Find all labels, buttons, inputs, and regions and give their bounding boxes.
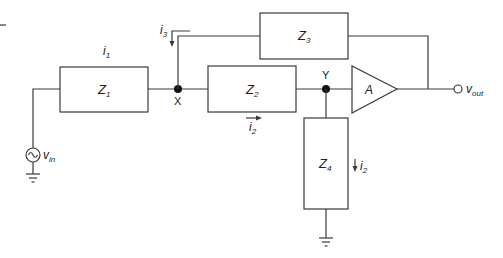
- amplifier-label: A: [364, 83, 373, 97]
- circuit-diagram: vin Z1 i1 X i3 Z2 i2 Y Z4 i2 Z3 A vout: [0, 0, 503, 258]
- ground-icon: [26, 174, 40, 182]
- i1-label: i1: [103, 44, 110, 60]
- vin-label: vin: [43, 148, 56, 164]
- i3-arrow-icon: [170, 41, 175, 47]
- input-source: [26, 89, 60, 182]
- node-y-label: Y: [322, 69, 330, 81]
- i2-arrow-icon: [256, 116, 262, 121]
- i2-series-label: i2: [249, 120, 257, 136]
- input-wire: [33, 89, 60, 148]
- i3-label: i3: [160, 23, 168, 39]
- i2-shunt-label: i2: [360, 159, 368, 175]
- i2-shunt-arrow-icon: [353, 166, 358, 172]
- amplifier: [352, 66, 397, 113]
- ground-icon-z4: [319, 238, 333, 246]
- output-terminal: [454, 85, 462, 93]
- vout-label: vout: [466, 82, 484, 98]
- node-x-label: X: [174, 95, 182, 107]
